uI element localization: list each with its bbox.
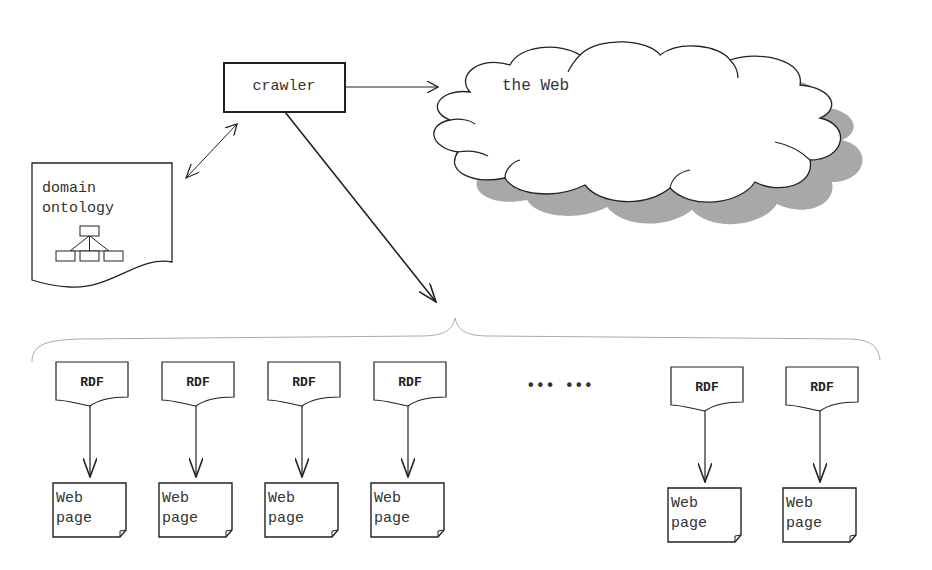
rdf-webpage-pair: RDF Web page	[53, 362, 128, 537]
rdf-webpage-pair: RDF Web page	[159, 362, 234, 537]
crawler-diagram: crawler the Web domain ontology	[0, 0, 932, 570]
ontology-label-line1: domain	[42, 180, 96, 197]
webpage-label-line2: page	[671, 515, 707, 532]
rdf-label: RDF	[80, 375, 104, 390]
webpage-label-line1: Web	[162, 490, 189, 507]
results-brace	[32, 318, 880, 362]
rdf-label: RDF	[810, 380, 834, 395]
rdf-label: RDF	[695, 380, 719, 395]
webpage-label-line1: Web	[671, 495, 698, 512]
rdf-label: RDF	[398, 375, 422, 390]
rdf-label: RDF	[292, 375, 316, 390]
crawler-label: crawler	[252, 78, 315, 95]
webpage-label-line2: page	[786, 515, 822, 532]
webpage-label-line1: Web	[268, 490, 295, 507]
rdf-webpage-pair: RDF Web page	[783, 367, 858, 542]
webpage-label-line2: page	[56, 510, 92, 527]
rdf-webpage-pair: RDF Web page	[668, 367, 743, 542]
ontology-label-line2: ontology	[42, 200, 114, 217]
rdf-label: RDF	[186, 375, 210, 390]
domain-ontology-doc: domain ontology	[32, 163, 172, 287]
ontology-crawler-arrow	[186, 124, 237, 178]
web-label: the Web	[502, 77, 569, 95]
crawler-node: crawler	[224, 63, 345, 112]
webpage-label-line1: Web	[374, 490, 401, 507]
ellipsis: ••• •••	[526, 377, 593, 395]
webpage-label-line2: page	[374, 510, 410, 527]
crawler-to-results-arrow	[285, 112, 436, 302]
web-cloud: the Web	[434, 42, 863, 224]
webpage-label-line1: Web	[56, 490, 83, 507]
webpage-label-line2: page	[268, 510, 304, 527]
rdf-webpage-pair: RDF Web page	[265, 362, 340, 537]
webpage-label-line1: Web	[786, 495, 813, 512]
rdf-webpage-pair: RDF Web page	[371, 362, 446, 537]
webpage-label-line2: page	[162, 510, 198, 527]
